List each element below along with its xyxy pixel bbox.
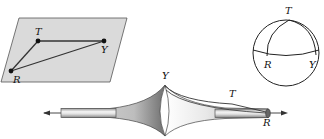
sphere-meridian-y [289, 20, 316, 55]
point-r [9, 69, 14, 74]
left-tube [61, 109, 116, 118]
euclidean-plane: T Y R [1, 18, 127, 85]
arrow-right-icon [281, 111, 288, 116]
label-r: R [12, 74, 21, 85]
sphere-meridian-r [267, 20, 289, 56]
arrow-left-icon [43, 111, 50, 116]
point-t [36, 39, 41, 44]
sphere-equator [253, 50, 319, 56]
sphere: T R Y [253, 5, 319, 86]
pseudo-label-t: T [229, 88, 237, 99]
sphere-label-r: R [263, 59, 272, 70]
sphere-label-t: T [285, 5, 293, 16]
point-y [102, 39, 107, 44]
pseudo-label-y: Y [162, 70, 170, 81]
geometry-figures: T Y R T R Y Y T R [0, 0, 324, 139]
sphere-label-y: Y [309, 59, 317, 70]
plane-surface [1, 18, 127, 82]
pseudo-label-r: R [262, 117, 271, 128]
